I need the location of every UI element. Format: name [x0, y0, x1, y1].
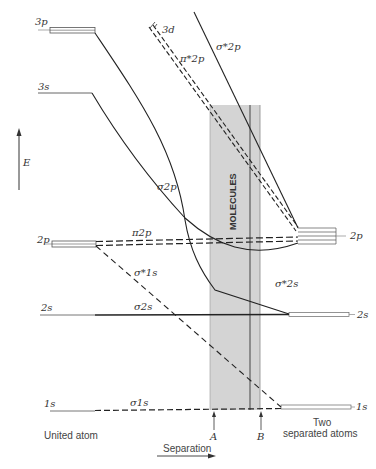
united-atom-label: United atom	[44, 430, 98, 441]
orbital-label-pi-star-2p: π*2p	[179, 53, 205, 64]
energy-axis	[17, 128, 22, 190]
orbital-label-sigma-star-1s: σ*1s	[134, 267, 157, 278]
marker-b-label: B	[256, 431, 264, 442]
level-label-3p: 3p	[35, 16, 48, 27]
level-label-1s: 1s	[44, 398, 56, 409]
correlation-diagram: MOLECULES E 3p 3s 2p 2s 1s 2p 2s 1s	[0, 0, 376, 469]
marker-a	[212, 411, 216, 430]
orbital-pi-2p	[96, 237, 298, 246]
level-label-3d: 3d	[162, 24, 175, 35]
arrow-right-icon	[208, 454, 216, 459]
energy-label: E	[22, 157, 31, 168]
separation-label: Separation	[163, 443, 211, 454]
orbital-label-pi-2p: π2p	[131, 227, 152, 238]
level-label-1s-right: 1s	[356, 401, 368, 412]
arrow-up-icon	[212, 411, 216, 417]
orbital-label-sigma-2p: σ2p	[157, 181, 177, 192]
orbital-sigma-2p	[92, 93, 298, 250]
level-1s-separated	[281, 405, 351, 409]
level-label-3s: 3s	[38, 81, 50, 92]
orbital-sigma-2s	[95, 315, 289, 316]
molecules-region	[210, 105, 260, 410]
level-label-2s: 2s	[40, 302, 53, 313]
molecules-label: MOLECULES	[228, 173, 238, 230]
level-label-2s-right: 2s	[356, 309, 369, 320]
orbital-label-sigma-star-2s: σ*2s	[275, 278, 298, 289]
marker-b	[259, 411, 263, 430]
marker-a-label: A	[209, 431, 217, 442]
orbital-label-sigma-2s: σ2s	[134, 301, 152, 312]
orbital-label-sigma-star-2p: σ*2p	[216, 41, 241, 52]
separation-axis	[157, 454, 216, 459]
orbital-label-sigma-1s: σ1s	[130, 397, 148, 408]
level-2s-separated	[289, 313, 349, 317]
separated-atoms-label-line1: Two	[313, 417, 332, 428]
diagram-canvas: MOLECULES E 3p 3s 2p 2s 1s 2p 2s 1s	[0, 0, 376, 469]
separated-atoms-label-line2: separated atoms	[283, 428, 358, 439]
arrow-up-icon	[259, 411, 263, 417]
arrow-up-icon	[17, 128, 22, 136]
level-2p-separated	[298, 228, 346, 244]
level-label-2p-right: 2p	[349, 230, 363, 241]
level-label-2p: 2p	[36, 234, 50, 245]
